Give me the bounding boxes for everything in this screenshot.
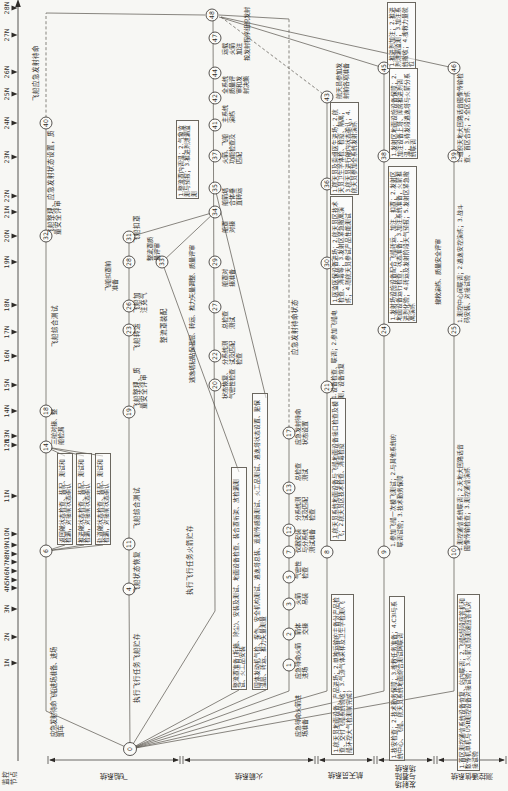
activity-box: 1.航天员地面设备、产品进场；2.单独运输的主备份产品检查、交付飞船系统验收；3… [331, 594, 354, 755]
edge-label: 应急发射待命飞船进场准备、进场卸车 [50, 645, 64, 737]
tick-label: 21N [3, 205, 10, 218]
activity-box: 1.发射区地面设施设备保障；2.加注设备上塔、库房推进剂调温；3.待发段逃逸塔与… [389, 68, 418, 159]
node-number-42: 42 [211, 94, 218, 102]
edge-label: 航天员参加发射前各项准备 [335, 59, 349, 99]
tick-label: 2N [3, 632, 10, 641]
node-number-19: 19 [125, 408, 132, 416]
node-number-2: 2 [285, 632, 292, 636]
activity-box: 1.技安检查；2.技术勤务保障；3.搜救任务准备；4.C3I与系统中心、飞船、航… [389, 596, 405, 761]
tick-mark-icon [12, 635, 18, 640]
lane-label-text: 航天员系统 [328, 772, 363, 780]
edge-fairing-entry [130, 690, 239, 749]
tick-mark-icon [12, 434, 18, 439]
tick-mark-icon [12, 121, 18, 126]
lane-arrow-icon [427, 758, 433, 762]
edge-label: 飞船转运 [134, 323, 141, 351]
edge-label: 气密性检查 [294, 559, 308, 579]
edge-label: 整流罩装配 [161, 308, 168, 343]
lane-label-2: 火箭系统 [183, 763, 315, 789]
node-number-6: 6 [42, 549, 49, 553]
edge-label: 船箭塔合体垂直转运 [221, 185, 242, 206]
edge-label: 船罩对接 [221, 219, 235, 233]
tick-mark-icon [12, 330, 18, 335]
tick-label: 28N [3, 1, 10, 14]
edge-label: 飞船整理、质量安全评审 [134, 362, 149, 409]
lane-arrow-icon [499, 758, 505, 762]
tick-mark-icon [12, 260, 18, 265]
tick-mark-icon [12, 532, 18, 537]
edge-label: 1.组织天地大回路话音图像传输检查、首区合练；2.全区合练 [457, 71, 470, 163]
node-number-1: 1 [285, 663, 292, 667]
node-number-5: 5 [285, 575, 292, 579]
tick-label: 26N [3, 65, 10, 78]
tick-label: 4N [3, 583, 10, 592]
lane-label-text: 火箭系统 [235, 772, 263, 780]
edge-label: 全系统质量评审和发射决策 [221, 73, 249, 94]
edge-escape-tower-entry [130, 690, 266, 749]
lane-label-text: 飞船系统 [100, 772, 128, 780]
tick-mark-icon [12, 70, 18, 75]
axis-title: 节点 [10, 771, 18, 785]
tick-mark-icon [12, 303, 18, 308]
tick-label: 3N [3, 604, 10, 613]
edge-label: 火箭、飞船功能检查及匹配 [221, 134, 242, 164]
tick-mark-icon [12, 155, 18, 160]
tick-label: 8N [3, 549, 10, 558]
edge-label: 按发射程序组织发射 [243, 7, 250, 61]
tick-mark-icon [12, 586, 18, 591]
activity-box: 1.航天员及乘组医生进场；2.航天员卫生学体检、检疫、隔离；3.航天员进行舱内状… [330, 102, 359, 195]
activity-box: 1.推进剂加注；2.推进剂泄漏监测；3.加注系统撤收；4.搜救力量就位 [387, 2, 416, 69]
edge-label: 仪器安装与分系统测试准备 [294, 527, 315, 553]
node-number-0: 0 [126, 747, 133, 751]
edge-label: 船罩对接准备 [221, 266, 235, 287]
edge-rocket-standby-merge [219, 15, 289, 19]
node-number-20: 20 [211, 381, 218, 389]
node-number-31: 31 [125, 233, 132, 241]
lane-arrow-icon [438, 758, 444, 762]
node-number-11: 11 [125, 540, 132, 548]
lane-label-3: 航天员系统 [318, 763, 374, 789]
tick-mark-icon [12, 607, 18, 612]
tick-mark-icon [12, 354, 18, 359]
node-number-17: 17 [285, 429, 292, 437]
edge-label: 应急待命火箭进场 [294, 643, 308, 679]
tick-label: 1N [3, 658, 10, 667]
edge-label: 分系统测试及匹配检查 [294, 493, 315, 521]
tick-mark-icon [12, 552, 18, 557]
activity-box: 整流罩准备(拆箱、除尘)、安装及测试、地面设备检查、装合罩桁架、放检漏测试、火工… [231, 467, 247, 690]
tick-mark-icon [12, 494, 18, 499]
edge-label: 火箭吊装 [294, 591, 308, 605]
tick-label: 15N [3, 378, 10, 391]
node-number-37: 37 [211, 152, 218, 160]
node-number-29: 29 [211, 258, 218, 266]
edge-label: 1.测控中心间联调；2.逃逸安控演练；3.战斗码安装、对接试验 [457, 199, 470, 323]
rotated-diagram: 1N2N3N4N5N6N7N8N9N10N11N12N13N14N15N16N1… [0, 0, 508, 791]
tick-label: 18N [3, 298, 10, 311]
node-number-47: 47 [211, 34, 218, 42]
lane-arrow-icon [184, 758, 190, 762]
lane-label-1: 飞船系统 [48, 763, 180, 789]
activity-box: 1.发射场设施设备配合飞船转运、加注、扣罩；2.发射区地面设备运行检查，状态准备… [388, 166, 417, 323]
node-number-27: 27 [211, 303, 218, 311]
edge-label: 总检查测试 [294, 461, 308, 481]
tick-mark-icon [12, 560, 18, 565]
edge-label: 应急发射待命状态 [292, 299, 299, 355]
tick-label: 17N [3, 325, 10, 338]
tick-label: 19N [3, 255, 10, 268]
node-number-3: 3 [285, 602, 292, 606]
lane-arrow-icon [308, 758, 314, 762]
edge-label: 1.参加飞船一次模飞测试；2.与其他系统的联调试验；3.技术勤务保障 [390, 429, 403, 547]
edge-label: 箭体交接 [294, 621, 308, 635]
node-number-12: 12 [285, 526, 292, 534]
tick-mark-icon [12, 578, 18, 583]
node-number-28: 28 [125, 258, 132, 266]
tick-label: 16N [3, 349, 10, 362]
tick-mark-icon [12, 33, 18, 38]
axis-arrow-icon [15, 0, 21, 7]
activity-box: 轨道舱状态检查、装配、测试和检漏，对接前状态确认 [95, 453, 111, 545]
node-number-38: 38 [380, 152, 387, 160]
edge-label: 飞船状态恢复 [134, 551, 141, 593]
lane-label-4: 发射场与着陆场系统 [377, 763, 434, 789]
tick-label: 9N [3, 540, 10, 549]
tick-label: 6N [3, 566, 10, 575]
